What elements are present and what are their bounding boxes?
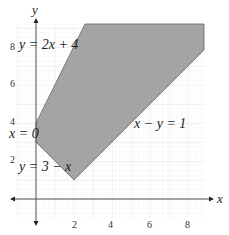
x-tick-6: 6 bbox=[147, 220, 152, 230]
y-tick-6: 6 bbox=[10, 79, 15, 89]
y-axis-down-arrow-icon bbox=[34, 221, 39, 226]
label-x-minus-y-eq-1: x − y = 1 bbox=[134, 117, 186, 131]
y-tick-8: 8 bbox=[10, 42, 15, 52]
x-tick-2: 2 bbox=[72, 220, 77, 230]
label-x-eq-0: x = 0 bbox=[9, 127, 39, 141]
y-tick-2: 2 bbox=[10, 155, 15, 165]
x-axis-label: x bbox=[217, 192, 223, 205]
y-axis-up-arrow-icon bbox=[34, 18, 39, 23]
y-axis-label: y bbox=[32, 3, 38, 16]
x-axis-left-arrow-icon bbox=[10, 197, 15, 202]
label-y-eq-3-minus-x: y = 3 − x bbox=[19, 160, 71, 174]
x-tick-8: 8 bbox=[185, 220, 190, 230]
label-y-eq-2x-plus-4: y = 2x + 4 bbox=[19, 38, 78, 52]
inequality-region-plot bbox=[0, 0, 229, 235]
x-axis-right-arrow-icon bbox=[209, 197, 214, 202]
x-tick-4: 4 bbox=[108, 220, 113, 230]
